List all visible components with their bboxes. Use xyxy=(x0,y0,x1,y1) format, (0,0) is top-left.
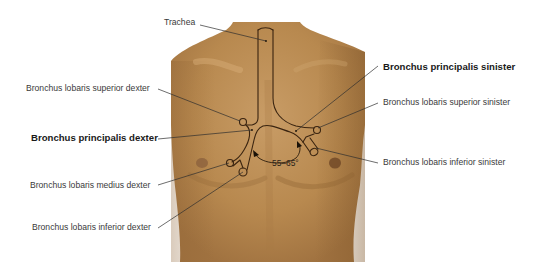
torso xyxy=(171,22,365,262)
label-bronchus-lobaris-superior-sinister: Bronchus lobaris superior sinister xyxy=(383,98,510,107)
right-nipple xyxy=(196,158,208,168)
left-nipple xyxy=(329,158,341,169)
label-bronchus-lobaris-inferior-dexter: Bronchus lobaris inferior dexter xyxy=(32,223,151,232)
label-bronchus-lobaris-inferior-sinister: Bronchus lobaris inferior sinister xyxy=(383,158,505,167)
label-bronchus-principalis-dexter: Bronchus principalis dexter xyxy=(31,133,158,143)
label-bronchus-lobaris-medius-dexter: Bronchus lobaris medius dexter xyxy=(30,181,150,190)
label-bronchus-lobaris-superior-dexter: Bronchus lobaris superior dexter xyxy=(26,84,150,93)
label-bronchus-principalis-sinister: Bronchus principalis sinister xyxy=(383,62,515,72)
label-trachea: Trachea xyxy=(164,18,195,27)
angle-label: 55–65° xyxy=(272,158,299,168)
